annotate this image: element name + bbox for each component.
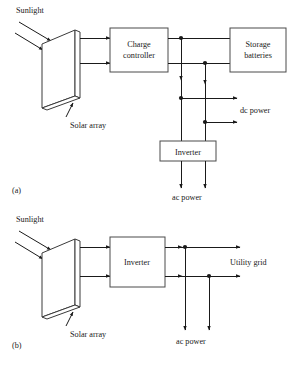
ac-power-label-a: ac power <box>172 193 202 202</box>
junction-dot <box>203 61 207 65</box>
solar-array-face-b <box>42 239 75 317</box>
junction-dot <box>183 245 187 249</box>
diagram-canvas: Sunlight Solar array <box>0 0 292 368</box>
clipped-caption <box>0 356 292 368</box>
solar-array-leader-a <box>66 103 73 117</box>
junction-dot <box>179 36 183 40</box>
junction-dot <box>179 96 183 100</box>
charge-controller-box <box>110 28 168 72</box>
sunlight-label-a: Sunlight <box>16 6 44 15</box>
inverter-label-b: Inverter <box>124 258 150 267</box>
solar-array-leader-b <box>66 312 73 326</box>
solar-array-label-a: Solar array <box>70 121 107 130</box>
charge-controller-label-line2: controller <box>123 51 155 60</box>
dc-power-label-a: dc power <box>240 106 271 115</box>
panel-letter-b: (b) <box>12 341 22 350</box>
junction-dot <box>207 274 211 278</box>
ac-power-label-b: ac power <box>176 337 206 346</box>
sunlight-label-b: Sunlight <box>16 215 44 224</box>
solar-array-label-b: Solar array <box>70 330 107 339</box>
solar-array-b <box>42 239 80 319</box>
inverter-label-a: Inverter <box>175 148 201 157</box>
junction-dot <box>203 120 207 124</box>
charge-controller-label-line1: Charge <box>127 40 151 49</box>
solar-array-a <box>42 30 80 110</box>
figure-root: Sunlight Solar array <box>0 0 292 368</box>
utility-grid-label-b: Utility grid <box>230 258 267 267</box>
panel-a: Sunlight Solar array <box>12 6 286 202</box>
storage-batteries-label-line2: batteries <box>244 51 272 60</box>
storage-batteries-label-line1: Storage <box>245 40 270 49</box>
solar-array-side-a <box>75 30 80 98</box>
panel-b: Sunlight Solar array Inverter <box>12 215 267 350</box>
solar-array-face-a <box>42 30 75 108</box>
sunlight-ray-icon <box>15 33 43 50</box>
sunlight-ray-icon <box>15 242 43 259</box>
storage-batteries-box <box>230 28 286 72</box>
panel-letter-a: (a) <box>12 186 21 195</box>
solar-array-side-b <box>75 239 80 307</box>
